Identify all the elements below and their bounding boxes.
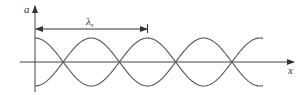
x-axis-label: x — [287, 64, 293, 76]
standing-wave-diagram: a x λs — [0, 0, 308, 95]
y-axis-label: a — [24, 3, 30, 15]
wavelength-label: λs — [85, 15, 94, 29]
